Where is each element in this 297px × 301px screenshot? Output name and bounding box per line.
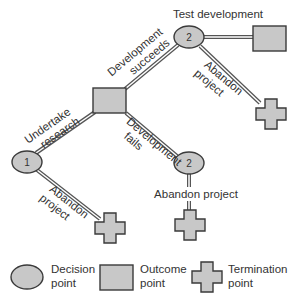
decision-tree-diagram: 1 2 2 Undertake research Abandon project… (0, 0, 297, 301)
svg-text:Outcome: Outcome (140, 263, 187, 275)
svg-text:1: 1 (24, 157, 30, 168)
legend-rectangle-icon (100, 265, 133, 290)
svg-text:2: 2 (186, 158, 192, 169)
legend-cross-icon (192, 262, 222, 292)
outcome-node-top (253, 26, 286, 51)
termination-node-bottom (175, 210, 205, 240)
decision-node-2-top: 2 (174, 26, 204, 48)
termination-node-top (256, 99, 286, 129)
label-undertake-research: Undertake research (22, 104, 81, 156)
decision-node-1: 1 (12, 151, 42, 173)
label-development-fails: Development fails (116, 115, 185, 178)
legend-item-decision: Decision point (11, 263, 95, 289)
legend-ellipse-icon (11, 265, 43, 289)
label-test-development: Test development (173, 8, 264, 20)
label-abandon-top: Abandon project (192, 57, 245, 107)
legend-item-termination: Termination point (192, 262, 287, 292)
svg-text:Decision: Decision (51, 263, 95, 275)
svg-text:point: point (228, 277, 254, 289)
legend: Decision point Outcome point Termination… (11, 262, 287, 292)
legend-item-outcome: Outcome point (100, 263, 187, 290)
svg-text:2: 2 (186, 32, 192, 43)
svg-text:Termination: Termination (228, 263, 287, 275)
svg-text:point: point (140, 277, 166, 289)
svg-text:point: point (51, 277, 77, 289)
outcome-node-mid (93, 88, 126, 113)
label-abandon-bottom: Abandon project (154, 188, 239, 200)
